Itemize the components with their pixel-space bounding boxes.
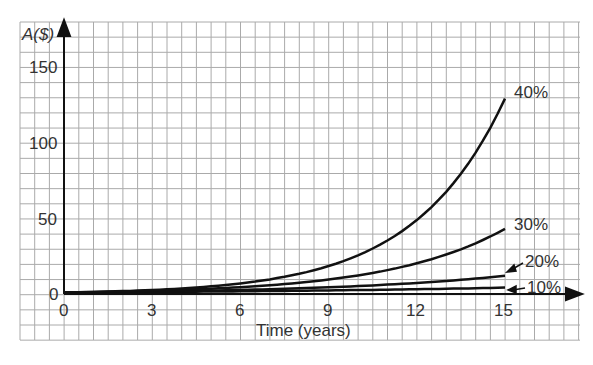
x-tick-9: 9 — [323, 302, 332, 319]
label-arrows — [507, 263, 525, 293]
axes — [58, 20, 582, 300]
x-axis-title: Time (years) — [256, 322, 351, 339]
y-tick-50: 50 — [38, 211, 57, 228]
y-axis-title: A($) — [22, 26, 54, 43]
y-tick-100: 100 — [29, 135, 57, 152]
x-tick-0: 0 — [59, 302, 68, 319]
series-label-30: 30% — [514, 216, 548, 233]
series-label-10: 10% — [527, 279, 561, 296]
y-tick-0: 0 — [49, 286, 58, 303]
x-tick-3: 3 — [147, 302, 156, 319]
x-tick-6: 6 — [235, 302, 244, 319]
x-tick-15: 15 — [494, 302, 513, 319]
y-tick-150: 150 — [29, 59, 57, 76]
series-label-20: 20% — [525, 253, 559, 270]
x-tick-12: 12 — [406, 302, 425, 319]
series-label-40: 40% — [514, 84, 548, 101]
